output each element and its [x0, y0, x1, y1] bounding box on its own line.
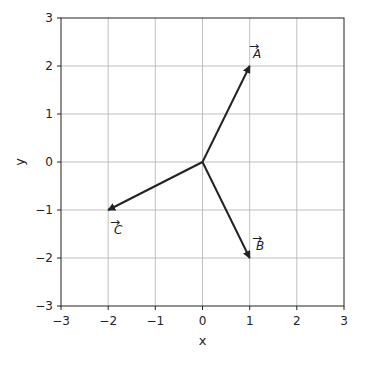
x-tick-label: 0	[199, 314, 207, 328]
y-ticks	[57, 18, 61, 306]
x-tick-label: 2	[293, 314, 301, 328]
y-tick-label: 0	[45, 155, 53, 169]
y-tick-label: −1	[35, 203, 53, 217]
y-tick-label: −3	[35, 299, 53, 313]
y-tick-label: 3	[45, 11, 53, 25]
x-tick-label: −2	[99, 314, 117, 328]
y-axis-label: y	[12, 158, 27, 166]
y-tick-label: −2	[35, 251, 53, 265]
vector-arrow-a: →	[249, 39, 259, 53]
x-tick-label: 1	[246, 314, 254, 328]
vector-labels: A → B → C →	[110, 39, 264, 253]
vector-arrow-c: →	[110, 215, 120, 229]
x-axis-label: x	[199, 333, 207, 348]
y-tick-label: 2	[45, 59, 53, 73]
y-tick-label: 1	[45, 107, 53, 121]
x-tick-label: −1	[146, 314, 164, 328]
x-tick-label: 3	[340, 314, 348, 328]
x-ticks	[61, 306, 344, 310]
x-tick-label: −3	[52, 314, 70, 328]
vector-chart: −3 −2 −1 0 1 2 3 3 2 1 0 −1 −2 −3 x y A …	[0, 0, 366, 366]
vector-arrow-b: →	[252, 231, 262, 245]
